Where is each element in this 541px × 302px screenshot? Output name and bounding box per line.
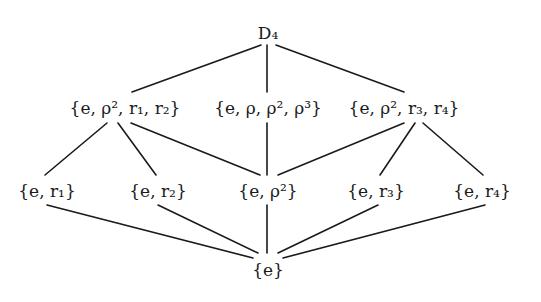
- node-r3: {e, r₃}: [347, 183, 404, 200]
- node-r1: {e, r₁}: [18, 183, 75, 200]
- node-label: {e, ρ², r₁, r₂}: [70, 98, 181, 118]
- lattice-edges: [0, 0, 541, 302]
- node-r2: {e, r₂}: [129, 183, 186, 200]
- node-d4: D₄: [258, 25, 278, 42]
- edge-d4-v2: [276, 45, 404, 92]
- node-v1: {e, ρ², r₁, r₂}: [70, 100, 181, 117]
- node-label: D₄: [258, 23, 278, 43]
- edge-d4-v1: [132, 45, 261, 92]
- node-label: {e, ρ²}: [238, 181, 297, 201]
- node-label: {e}: [252, 260, 284, 280]
- node-z2: {e, ρ²}: [238, 183, 297, 200]
- edge-r1-e: [47, 205, 253, 258]
- node-label: {e, ρ, ρ², ρ³}: [214, 98, 322, 118]
- node-v2: {e, ρ², r₃, r₄}: [349, 100, 460, 117]
- node-label: {e, r₂}: [129, 181, 186, 201]
- subgroup-lattice-diagram: D₄{e, ρ², r₁, r₂}{e, ρ, ρ², ρ³}{e, ρ², r…: [0, 0, 541, 302]
- node-r4: {e, r₄}: [453, 183, 510, 200]
- node-e: {e}: [252, 262, 284, 279]
- edge-v2-r4: [423, 123, 483, 175]
- node-label: {e, r₄}: [453, 181, 510, 201]
- node-label: {e, ρ², r₃, r₄}: [349, 98, 460, 118]
- node-c4: {e, ρ, ρ², ρ³}: [214, 100, 322, 117]
- edge-r4-e: [283, 205, 485, 258]
- edge-v1-r1: [45, 123, 107, 175]
- node-label: {e, r₁}: [18, 181, 75, 201]
- node-label: {e, r₃}: [347, 181, 404, 201]
